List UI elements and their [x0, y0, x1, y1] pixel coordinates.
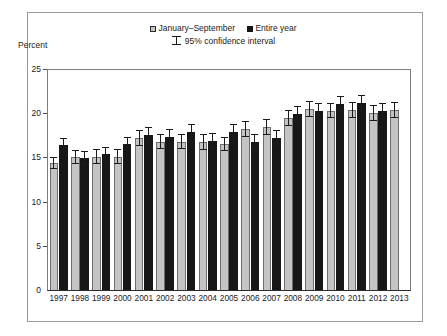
error-bar — [157, 134, 164, 150]
error-bar — [349, 102, 356, 118]
bar-january-september — [284, 118, 293, 290]
x-axis-tick-label: 2000 — [113, 293, 131, 303]
error-bar — [337, 96, 344, 112]
confidence-interval-icon — [172, 35, 181, 46]
error-bar — [136, 130, 143, 146]
y-axis-tick-mark — [43, 113, 47, 114]
y-axis-tick-label: 5 — [17, 241, 41, 251]
bar-january-september — [135, 138, 144, 290]
x-axis-tick-label: 2013 — [390, 293, 408, 303]
bar-group — [304, 69, 325, 290]
bar-entire-year — [357, 103, 366, 290]
bar-january-september — [156, 142, 165, 291]
error-bar — [285, 110, 292, 126]
bar-entire-year — [293, 114, 302, 290]
x-axis-tick-label: 2007 — [262, 293, 280, 303]
bar-entire-year — [378, 111, 387, 290]
error-bar — [102, 147, 109, 161]
y-axis-tick-mark — [43, 246, 47, 247]
chart-figure: January–September Entire year 95% confid… — [0, 0, 447, 336]
bar-entire-year — [80, 158, 89, 290]
error-bar — [358, 95, 365, 111]
bar-january-september — [241, 129, 250, 290]
error-bar — [72, 150, 79, 164]
x-axis-tick-label: 2006 — [241, 293, 259, 303]
legend-swatch-icon-light — [150, 26, 156, 32]
error-bar — [327, 103, 334, 119]
bar-january-september — [199, 142, 208, 290]
bar-entire-year — [102, 154, 111, 290]
bar-january-september — [369, 113, 378, 290]
bar-january-september — [327, 111, 336, 290]
bar-group — [154, 69, 175, 290]
error-bar — [81, 151, 88, 165]
y-axis-tick-label: 10 — [17, 197, 41, 207]
error-bar — [230, 124, 237, 140]
x-axis-tick-label: 2009 — [305, 293, 323, 303]
error-bar — [306, 101, 313, 117]
error-bar — [124, 137, 131, 151]
bar-entire-year — [59, 145, 68, 290]
error-bar — [315, 103, 322, 119]
error-bar — [273, 130, 280, 146]
bar-january-september — [50, 163, 59, 290]
legend-swatch-icon-dark — [247, 26, 253, 32]
bar-january-september — [177, 142, 186, 291]
bar-group — [240, 69, 261, 290]
bar-group — [218, 69, 239, 290]
bar-group — [325, 69, 346, 290]
bar-entire-year — [315, 111, 324, 290]
y-axis-tick-mark — [43, 202, 47, 203]
bar-group — [133, 69, 154, 290]
bar-january-september — [348, 110, 357, 290]
error-bar — [370, 105, 377, 121]
error-bar — [93, 149, 100, 163]
error-bar — [114, 149, 121, 163]
error-bar — [391, 102, 398, 118]
x-axis-tick-label: 2008 — [284, 293, 302, 303]
bar-january-september — [220, 144, 229, 290]
error-bar — [209, 133, 216, 149]
y-axis-tick-label: 15 — [17, 152, 41, 162]
y-axis-tick-mark — [43, 69, 47, 70]
bar-group — [282, 69, 303, 290]
bar-entire-year — [208, 141, 217, 290]
bar-january-september — [92, 157, 101, 290]
y-axis-tick-label: 20 — [17, 108, 41, 118]
x-axis-tick-label: 2012 — [369, 293, 387, 303]
bar-group — [197, 69, 218, 290]
bar-entire-year — [165, 137, 174, 290]
error-bar — [221, 137, 228, 151]
error-bar — [251, 134, 258, 150]
error-bar — [188, 124, 195, 140]
error-bar — [294, 106, 301, 122]
bar-entire-year — [144, 135, 153, 290]
x-axis-tick-label: 2011 — [348, 293, 366, 303]
bar-entire-year — [123, 144, 132, 290]
x-axis-tick-label: 2001 — [135, 293, 153, 303]
bars-layer — [48, 69, 410, 290]
x-axis-tick-label: 2010 — [326, 293, 344, 303]
error-bar — [379, 103, 386, 119]
bar-january-september — [390, 110, 399, 290]
error-bar — [166, 129, 173, 145]
x-axis-tick-label: 2005 — [220, 293, 238, 303]
y-axis-tick-label: 0 — [17, 285, 41, 295]
bar-entire-year — [336, 104, 345, 290]
plot-area: 0510152025 19971998199920002001200220032… — [47, 69, 411, 291]
y-axis-tick-label: 25 — [17, 64, 41, 74]
error-bar — [178, 134, 185, 150]
bar-group — [69, 69, 90, 290]
legend-ci-row: 95% confidence interval — [0, 35, 447, 48]
bar-group — [91, 69, 112, 290]
legend-label-entire-year: Entire year — [255, 23, 296, 33]
error-bar — [200, 134, 207, 150]
bar-entire-year — [187, 132, 196, 290]
legend-item-january-september: January–September — [150, 22, 235, 35]
bar-january-september — [114, 157, 123, 290]
legend-item-entire-year: Entire year — [247, 22, 296, 35]
bar-entire-year — [229, 132, 238, 290]
bar-january-september — [71, 157, 80, 290]
bar-group — [261, 69, 282, 290]
bar-january-september — [263, 127, 272, 290]
